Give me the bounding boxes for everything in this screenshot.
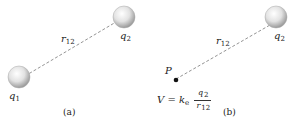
charge-q2-label-b: q2 <box>274 31 285 43</box>
point-p-label: P <box>165 66 172 76</box>
charge-q2-sphere-a <box>113 6 135 28</box>
charge-q1-label: q1 <box>9 91 20 103</box>
charge-q1-sphere <box>8 66 30 88</box>
distance-line-b <box>176 25 270 79</box>
diagram-canvas <box>0 0 297 127</box>
formula-fraction: q2 r12 <box>194 88 211 113</box>
distance-label-a: r12 <box>61 34 75 46</box>
charge-q2-label-a: q2 <box>120 31 131 43</box>
caption-b: (b) <box>223 107 236 117</box>
point-p-dot <box>174 78 179 83</box>
distance-label-b: r12 <box>216 36 230 48</box>
caption-a: (a) <box>63 107 75 117</box>
potential-formula: V = ke q2 r12 <box>157 88 211 113</box>
distance-line-a <box>25 22 116 76</box>
charge-q2-sphere-b <box>265 6 287 28</box>
